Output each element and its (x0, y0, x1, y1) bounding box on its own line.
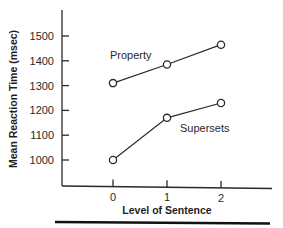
data-point-marker (163, 61, 170, 68)
x-tick-label: 1 (164, 191, 170, 203)
y-tick-label: 1300 (30, 80, 54, 92)
axes (62, 10, 272, 189)
x-axis-title: Level of Sentence (122, 204, 211, 216)
y-tick-label: 1500 (30, 30, 54, 42)
y-tick-label: 1200 (30, 104, 54, 116)
series-property: Property (109, 41, 224, 87)
x-ticks: 012 (110, 180, 224, 204)
y-tick-label: 1000 (30, 154, 54, 166)
series-supersets: Supersets (109, 99, 230, 163)
y-tick-label: 1400 (30, 55, 54, 67)
line-chart: 100011001200130014001500 012 PropertySup… (0, 0, 283, 228)
y-ticks: 100011001200130014001500 (30, 30, 69, 166)
x-tick-label: 2 (218, 192, 224, 204)
bottom-rule-divider (55, 222, 270, 224)
data-point-marker (109, 80, 116, 87)
data-point-marker (217, 99, 224, 106)
data-point-marker (217, 41, 224, 48)
data-point-marker (109, 156, 116, 163)
series-label: Supersets (180, 122, 230, 134)
y-tick-label: 1100 (30, 129, 54, 141)
series-layer: PropertySupersets (109, 41, 230, 164)
data-point-marker (163, 114, 170, 121)
y-axis-title: Mean Reaction Time (msec) (7, 30, 19, 168)
series-label: Property (110, 49, 152, 61)
x-tick-label: 0 (110, 191, 116, 203)
